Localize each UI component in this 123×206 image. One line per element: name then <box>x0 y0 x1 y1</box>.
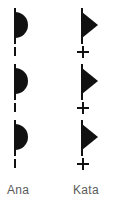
kata-unit-2 <box>70 64 120 100</box>
glyph-stack-kata <box>70 0 120 176</box>
triangle-right-icon <box>82 68 98 94</box>
triangle-right-icon <box>82 124 98 150</box>
dash-icon <box>14 103 16 112</box>
ana-separator-1 <box>3 44 53 60</box>
kata-separator-1 <box>70 45 120 61</box>
half-disc-icon <box>15 12 28 38</box>
triangle-right-icon <box>82 12 98 38</box>
ana-unit-2 <box>3 64 53 100</box>
dash-icon <box>14 47 16 56</box>
kata-separator-3 <box>70 157 120 173</box>
glyph-stack-ana <box>3 0 53 176</box>
column-label-ana: Ana <box>7 183 29 197</box>
plus-icon <box>77 101 89 115</box>
half-disc-icon <box>15 68 28 94</box>
column-kata <box>70 0 120 206</box>
half-disc-icon <box>15 124 28 150</box>
ana-separator-3 <box>3 156 53 172</box>
dash-icon <box>14 159 16 168</box>
column-ana <box>3 0 53 206</box>
ana-unit-3 <box>3 120 53 156</box>
ana-unit-1 <box>3 8 53 44</box>
kata-unit-3 <box>70 120 120 156</box>
ana-kata-diagram: Ana Kata <box>0 0 123 206</box>
ana-separator-2 <box>3 100 53 116</box>
column-label-kata: Kata <box>73 183 99 197</box>
plus-icon <box>77 157 89 171</box>
kata-separator-2 <box>70 101 120 117</box>
plus-icon <box>77 45 89 59</box>
kata-unit-1 <box>70 8 120 44</box>
